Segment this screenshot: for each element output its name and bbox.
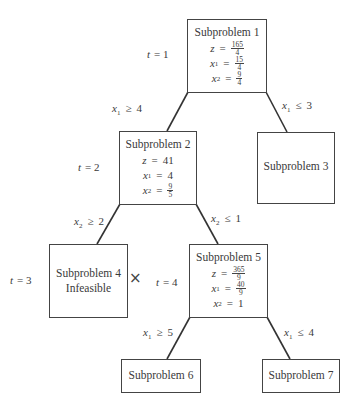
t-symbol: t <box>78 161 81 173</box>
pruned-cross-icon: × <box>129 269 142 287</box>
iteration-label-3: t= 3 <box>10 274 32 286</box>
equals-sign: = <box>154 48 160 60</box>
x2-value: 1 <box>238 297 244 310</box>
z-value: 41 <box>163 154 174 167</box>
iteration-value: 1 <box>163 48 169 60</box>
x2-value-row: x2=1 <box>213 296 243 311</box>
subscript: 1 <box>148 333 152 341</box>
branch-label-1-3: x1≤3 <box>282 99 312 114</box>
operator: ≥ <box>125 102 131 114</box>
branch-label-1-2: x1≥4 <box>112 102 142 117</box>
branch-label-5-6: x1≥5 <box>143 326 173 341</box>
equals-sign: = <box>156 184 162 197</box>
x1-value: 4 <box>168 169 174 182</box>
subproblem-3-node: Subproblem 3 <box>257 132 335 204</box>
node-title: Subproblem 2 <box>126 138 191 151</box>
node-title: Subproblem 6 <box>129 369 194 382</box>
x2-value-row: x2= 94 <box>212 71 242 86</box>
equals-sign: = <box>163 276 169 288</box>
operator: ≤ <box>297 326 303 338</box>
iteration-label-2: t= 2 <box>78 161 100 173</box>
operator: ≤ <box>224 212 230 224</box>
subscript: 1 <box>289 333 293 341</box>
subscript: 1 <box>117 109 121 117</box>
node-title: Subproblem 7 <box>269 369 334 382</box>
iteration-value: 4 <box>172 276 178 288</box>
branch-label-2-4: x2≥2 <box>74 215 104 230</box>
x2-value-row: x2= 95 <box>143 183 173 198</box>
denominator: 5 <box>168 191 172 199</box>
equals-sign: = <box>156 169 162 182</box>
fraction: 95 <box>167 183 173 199</box>
z-symbol: z <box>210 42 214 55</box>
bound-value: 1 <box>235 212 241 224</box>
subproblem-2-node: Subproblem 2 z=41 x1=4 x2= 95 <box>119 131 197 205</box>
subproblem-5-node: Subproblem 5 z= 3659 x1= 409 x2=1 <box>189 244 268 318</box>
t-symbol: t <box>10 274 13 286</box>
subproblem-1-node: Subproblem 1 z= 1654 x1= 154 x2= 94 <box>187 19 267 93</box>
subscript: 2 <box>79 222 83 230</box>
equals-sign: = <box>225 72 231 85</box>
branch-label-2-5: x2≤1 <box>211 212 241 227</box>
node-title: Subproblem 4 <box>56 267 121 280</box>
operator: ≤ <box>295 99 301 111</box>
x1-value-row: x1= 154 <box>210 56 244 71</box>
z-value-row: z= 3659 <box>212 266 246 281</box>
subproblem-4-node: Subproblem 4 Infeasible <box>49 244 128 318</box>
fraction: 94 <box>236 71 242 87</box>
bound-value: 4 <box>308 326 314 338</box>
bound-value: 4 <box>136 102 142 114</box>
equals-sign: = <box>227 297 233 310</box>
operator: ≥ <box>156 326 162 338</box>
fraction: 409 <box>236 281 246 297</box>
bound-value: 2 <box>98 215 104 227</box>
infeasible-status: Infeasible <box>66 282 111 295</box>
equals-sign: = <box>225 282 231 295</box>
subproblem-6-node: Subproblem 6 <box>121 359 201 393</box>
equals-sign: = <box>17 274 23 286</box>
subscript: 1 <box>215 60 219 68</box>
node-title: Subproblem 3 <box>264 160 329 173</box>
subscript: 2 <box>217 75 221 83</box>
z-value-row: z=41 <box>142 153 174 168</box>
edge-1-2 <box>167 92 188 131</box>
x1-value-row: x1=4 <box>143 168 173 183</box>
subproblem-7-node: Subproblem 7 <box>262 359 340 393</box>
equals-sign: = <box>221 267 227 280</box>
bound-value: 5 <box>167 326 173 338</box>
iteration-label-1: t= 1 <box>147 48 169 60</box>
branch-label-5-7: x1≤4 <box>284 326 314 341</box>
t-symbol: t <box>156 276 159 288</box>
z-symbol: z <box>142 154 146 167</box>
subscript: 2 <box>216 219 220 227</box>
subscript: 1 <box>148 172 152 180</box>
subscript: 1 <box>216 285 220 293</box>
iteration-value: 3 <box>26 274 32 286</box>
z-value-row: z= 1654 <box>210 41 244 56</box>
subscript: 2 <box>218 300 222 308</box>
subscript: 2 <box>148 187 152 195</box>
x1-value-row: x1= 409 <box>211 281 245 296</box>
denominator: 4 <box>237 79 241 87</box>
equals-sign: = <box>219 42 225 55</box>
equals-sign: = <box>223 57 229 70</box>
node-title: Subproblem 1 <box>195 26 260 39</box>
equals-sign: = <box>152 154 158 167</box>
iteration-label-4: t= 4 <box>156 276 178 288</box>
equals-sign: = <box>85 161 91 173</box>
node-title: Subproblem 5 <box>196 251 261 264</box>
iteration-value: 2 <box>94 161 100 173</box>
bound-value: 3 <box>306 99 312 111</box>
operator: ≥ <box>87 215 93 227</box>
t-symbol: t <box>147 48 150 60</box>
subscript: 1 <box>287 106 291 114</box>
z-symbol: z <box>212 267 216 280</box>
